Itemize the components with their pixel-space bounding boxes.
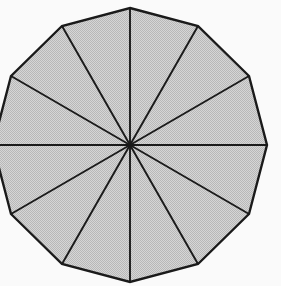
figure-canvas	[0, 0, 281, 286]
dodecagon-figure	[0, 0, 281, 286]
